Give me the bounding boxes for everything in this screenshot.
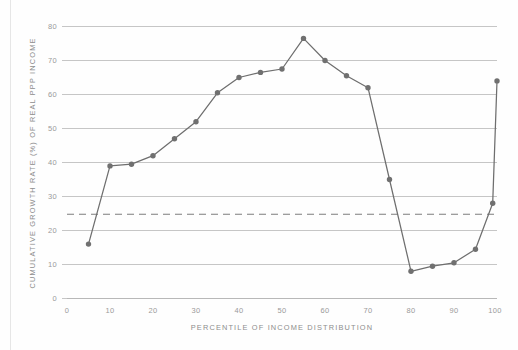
- data-point: [344, 73, 349, 78]
- y-tick-label: 30: [48, 192, 57, 201]
- x-tick-label: 0: [65, 306, 69, 315]
- data-point: [408, 269, 413, 274]
- y-axis-title: CUMULATIVE GROWTH RATE (%) OF REAL PPP I…: [28, 37, 37, 288]
- x-tick-label: 70: [364, 306, 373, 315]
- y-tick-label: 60: [48, 90, 57, 99]
- data-point: [107, 163, 112, 168]
- y-tick-label: 50: [48, 124, 57, 133]
- data-point: [193, 119, 198, 124]
- x-tick-labels: 0 10 20 30 40 50 60 70 80 90 100: [65, 306, 502, 315]
- chart-page: 80 70 60 50 40 30 20 10 0 0 10 20 30 40 …: [0, 0, 518, 350]
- x-tick-label: 10: [106, 306, 115, 315]
- data-point: [365, 85, 370, 90]
- y-tick-marks: [62, 27, 67, 299]
- data-point-markers: [86, 36, 500, 274]
- y-tick-label: 0: [53, 294, 57, 303]
- y-tick-label: 10: [48, 260, 57, 269]
- x-tick-label: 90: [450, 306, 459, 315]
- x-tick-label: 20: [149, 306, 158, 315]
- data-point: [236, 75, 241, 80]
- x-axis-title: PERCENTILE OF INCOME DISTRIBUTION: [191, 323, 374, 332]
- x-tick-label: 60: [321, 306, 330, 315]
- y-tick-label: 20: [48, 226, 57, 235]
- data-point: [86, 241, 91, 246]
- growth-rate-line: [89, 38, 498, 271]
- y-tick-label: 80: [48, 22, 57, 31]
- elephant-curve-chart: 80 70 60 50 40 30 20 10 0 0 10 20 30 40 …: [0, 0, 518, 350]
- x-tick-label: 30: [192, 306, 201, 315]
- data-point: [215, 90, 220, 95]
- data-point: [279, 66, 284, 71]
- data-point: [451, 260, 456, 265]
- y-tick-label: 70: [48, 56, 57, 65]
- data-point: [129, 162, 134, 167]
- data-point: [172, 136, 177, 141]
- data-point: [494, 78, 499, 83]
- data-point: [490, 201, 495, 206]
- data-point: [258, 70, 263, 75]
- y-tick-labels: 80 70 60 50 40 30 20 10 0: [48, 22, 57, 303]
- data-point: [473, 247, 478, 252]
- x-tick-label: 40: [235, 306, 244, 315]
- data-point: [387, 177, 392, 182]
- x-tick-label: 80: [407, 306, 416, 315]
- data-point: [150, 153, 155, 158]
- data-point: [301, 36, 306, 41]
- gridlines: [67, 27, 497, 265]
- x-tick-label: 100: [488, 306, 501, 315]
- y-tick-label: 40: [48, 158, 57, 167]
- data-point: [430, 264, 435, 269]
- chart-svg: 80 70 60 50 40 30 20 10 0 0 10 20 30 40 …: [0, 0, 518, 350]
- x-tick-label: 50: [278, 306, 287, 315]
- data-point: [322, 58, 327, 63]
